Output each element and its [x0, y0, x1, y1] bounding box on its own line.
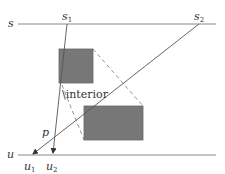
label-interior: \interior [62, 88, 109, 101]
label-u2: u2 [46, 160, 58, 174]
label-u1: u1 [24, 160, 36, 174]
label-u: u [7, 148, 14, 161]
label-s2: s2 [194, 10, 204, 24]
label-s: s [8, 17, 14, 30]
interior-diagram: s s1 s2 u u1 u2 p \interior [0, 0, 225, 174]
obstacle-rect-bottom [84, 106, 143, 140]
label-s1: s1 [62, 10, 72, 24]
label-p: p [42, 126, 49, 139]
